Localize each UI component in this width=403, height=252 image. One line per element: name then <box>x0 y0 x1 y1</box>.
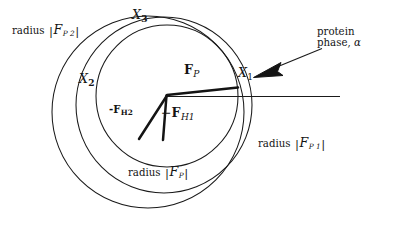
radius-fp2-symbol: F <box>54 22 63 37</box>
radius-fp-symbol: F <box>170 164 179 179</box>
x3-subscript: 3 <box>141 13 148 24</box>
radius-fp-subscript: P <box>178 171 183 180</box>
fh1-subscript: H1 <box>181 112 195 122</box>
harker-diagram-figure: radius |FP 2| X3 X2 X1 protein phase, α … <box>0 0 403 252</box>
label-vector-fh1: −FH1 <box>161 106 195 122</box>
fh1-sign: − <box>161 105 172 120</box>
label-x1: X1 <box>238 66 253 82</box>
protein-phase-pointer <box>254 49 323 78</box>
x2-subscript: 2 <box>88 77 95 88</box>
radius-fp1-prefix: radius <box>258 138 291 149</box>
vector-fp-arrow <box>167 88 238 96</box>
radius-fp1-symbol: F <box>300 135 309 150</box>
protein-phase-line2-prefix: phase, <box>317 37 351 48</box>
label-radius-fp1: radius |FP 1| <box>258 136 326 152</box>
radius-fp-prefix: radius <box>128 167 161 178</box>
label-protein-phase: protein phase, α <box>317 26 361 49</box>
label-vector-fh2: -FH2 <box>109 104 133 118</box>
radius-fp1-subscript: P 1 <box>308 142 320 151</box>
fh1-symbol: F <box>172 105 181 120</box>
radius-fp2-bar-close: | <box>75 24 80 38</box>
fh2-subscript: H2 <box>120 108 132 117</box>
label-x2: X2 <box>79 72 95 88</box>
x1-subscript: 1 <box>247 72 253 82</box>
radius-fp1-bar-close: | <box>321 137 326 151</box>
label-vector-fp: FP <box>184 63 199 79</box>
fp-subscript: P <box>193 69 200 79</box>
protein-phase-alpha-symbol: α <box>354 37 361 48</box>
protein-phase-line1: protein <box>317 26 361 37</box>
label-radius-fp2: radius |FP 2| <box>12 23 80 39</box>
label-x3: X3 <box>132 8 148 24</box>
radius-fp-bar-close: | <box>184 166 189 180</box>
x1-symbol: X <box>238 65 247 80</box>
protein-phase-line2: phase, α <box>317 37 361 48</box>
x2-symbol: X <box>79 71 88 86</box>
label-radius-fp: radius |FP| <box>128 165 189 181</box>
pointer-arrowhead <box>254 63 284 78</box>
radius-fp2-prefix: radius <box>12 25 45 36</box>
fp-symbol: F <box>184 62 193 77</box>
x3-symbol: X <box>132 7 141 22</box>
radius-fp2-subscript: P 2 <box>62 29 74 38</box>
